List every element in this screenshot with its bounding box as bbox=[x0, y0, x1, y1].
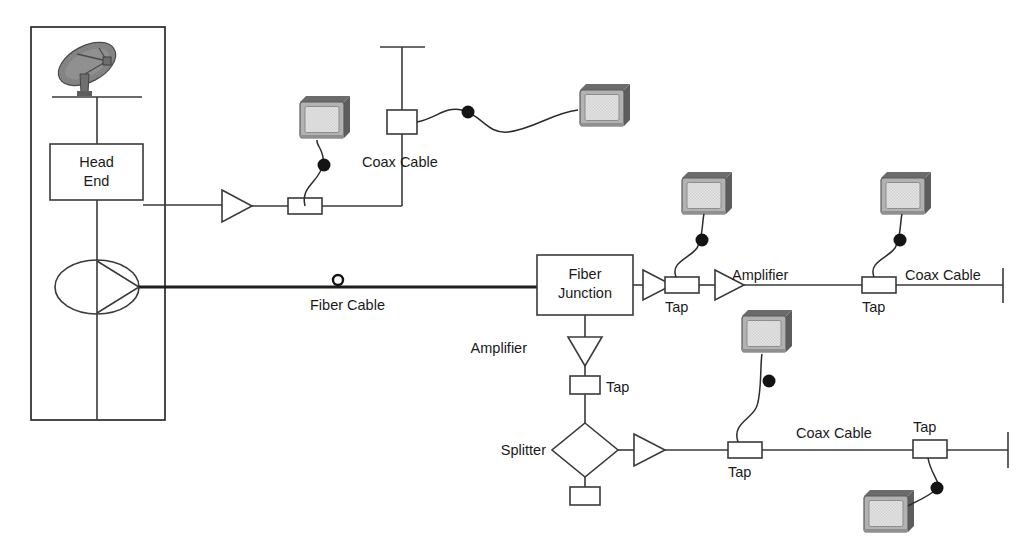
coax-cable-label-bottom: Coax Cable bbox=[796, 425, 872, 441]
terminator-box-splitter bbox=[570, 487, 600, 505]
tv-bottom-1-connector-dot bbox=[763, 375, 776, 388]
headend-enclosure bbox=[31, 27, 165, 420]
tv-bottom-2-connector-dot bbox=[931, 482, 944, 495]
hfc-network-diagram: Head End Fiber Cable Coax Cable bbox=[0, 0, 1033, 559]
fiber-junction-label-line2: Junction bbox=[558, 285, 612, 301]
amplifier-headend bbox=[222, 190, 252, 222]
tap-branch-label: Tap bbox=[606, 379, 629, 395]
head-end-box bbox=[50, 144, 143, 200]
tv-bottom-2 bbox=[864, 490, 914, 532]
tap-coax-vertical bbox=[387, 110, 417, 134]
tv-upper-right-drop-wire bbox=[417, 109, 578, 132]
tap-bottom-2 bbox=[913, 440, 947, 458]
amplifier-bottom bbox=[634, 434, 665, 466]
tv-upper-left-connector-dot bbox=[318, 159, 331, 172]
amplifier-mid-label: Amplifier bbox=[732, 267, 789, 283]
tap-mid-1-label: Tap bbox=[665, 299, 688, 315]
tv-upper-right bbox=[580, 84, 630, 126]
fiber-junction-label-line1: Fiber bbox=[568, 266, 601, 282]
head-end-label-line1: Head bbox=[79, 154, 114, 170]
coax-cable-label-mid-right: Coax Cable bbox=[905, 267, 981, 283]
splitter-label: Splitter bbox=[501, 442, 546, 458]
tv-mid-1-connector-dot bbox=[696, 234, 709, 247]
coax-cable-label-top: Coax Cable bbox=[362, 154, 438, 170]
tap-branch bbox=[570, 376, 600, 394]
tap-mid-2-label: Tap bbox=[862, 299, 885, 315]
tap-bottom-1-label: Tap bbox=[728, 464, 751, 480]
tap-mid-1 bbox=[665, 277, 699, 293]
tv-bottom-1-drop-wire bbox=[737, 354, 762, 442]
head-end-label-line2: End bbox=[84, 173, 110, 189]
tv-upper-left-drop-wire bbox=[304, 140, 323, 206]
tap-bottom-2-label: Tap bbox=[913, 419, 936, 435]
fiber-splice-marker bbox=[333, 275, 343, 285]
amplifier-branch bbox=[568, 337, 602, 366]
tv-upper-right-connector-dot bbox=[462, 106, 475, 119]
tap-bottom-1 bbox=[728, 442, 762, 458]
tv-mid-2 bbox=[881, 172, 931, 214]
tv-mid-1 bbox=[682, 172, 732, 214]
satellite-dish-icon bbox=[51, 34, 123, 96]
optical-transmitter-symbol bbox=[55, 260, 139, 314]
diagram-canvas: Head End Fiber Cable Coax Cable bbox=[0, 0, 1033, 559]
tap-mid-2 bbox=[862, 277, 896, 293]
tv-mid-2-connector-dot bbox=[894, 234, 907, 247]
fiber-cable-label: Fiber Cable bbox=[310, 297, 385, 313]
tv-bottom-1 bbox=[742, 310, 792, 352]
tv-upper-left bbox=[300, 96, 350, 138]
amplifier-branch-label: Amplifier bbox=[471, 340, 528, 356]
splitter-diamond bbox=[552, 423, 618, 477]
